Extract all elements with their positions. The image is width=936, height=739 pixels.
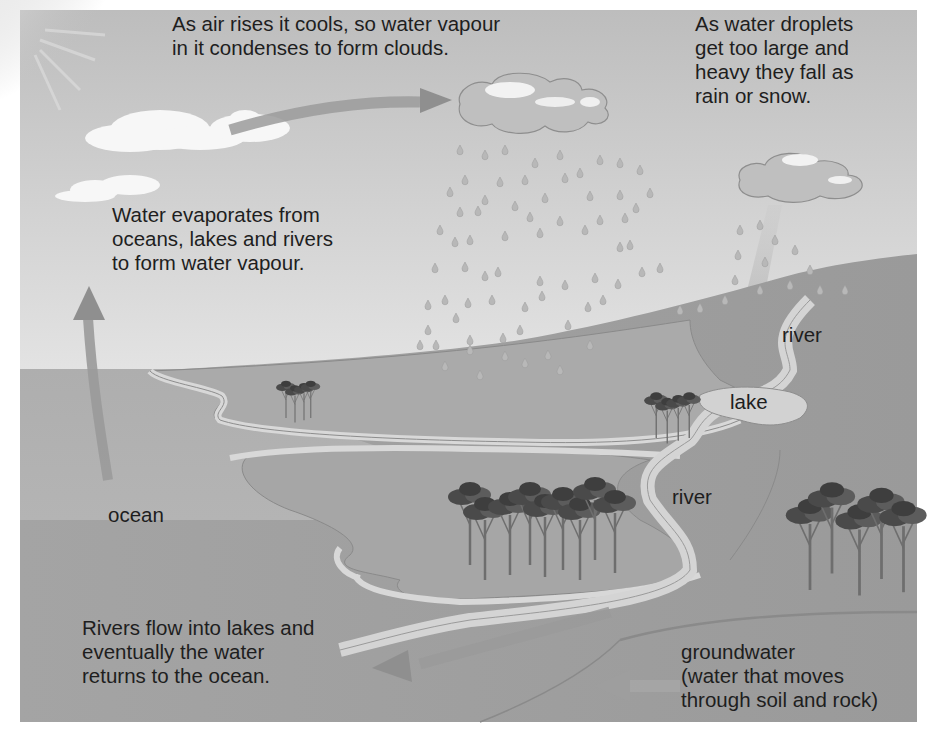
groundwater-annotation: groundwater (water that moves through so…	[681, 640, 878, 712]
precipitation-annotation: As water droplets get too large and heav…	[695, 12, 853, 108]
lake-label: lake	[730, 390, 768, 414]
runoff-annotation: Rivers flow into lakes and eventually th…	[82, 616, 314, 688]
river-label-lower: river	[672, 485, 712, 509]
river-label-upper: river	[782, 323, 822, 347]
evaporation-annotation: Water evaporates from oceans, lakes and …	[112, 203, 333, 275]
ocean-label: ocean	[108, 503, 164, 527]
condensation-annotation: As air rises it cools, so water vapour i…	[172, 12, 500, 60]
